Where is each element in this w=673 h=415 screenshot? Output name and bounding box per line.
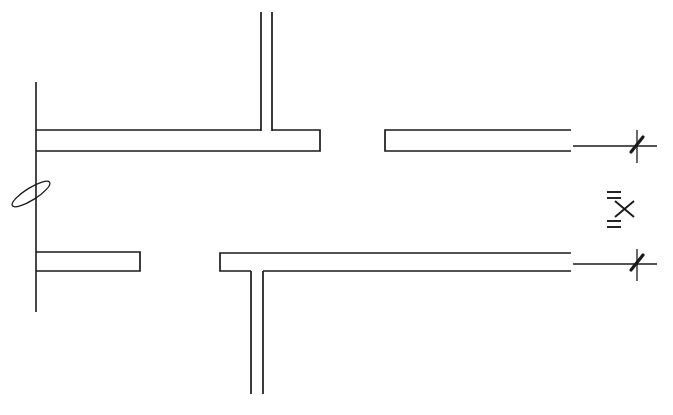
break-symbol-lower-equals [607,221,621,227]
slot-ellipse-break-symbol [9,177,53,210]
lower-left-flange-profile [36,252,140,271]
lower-tee-flange-left-profile [220,253,571,271]
lower-tee-assembly [220,253,571,394]
upper-left-flange-profile [36,130,320,151]
upper-web-stem-profile [261,12,272,131]
technical-drawing-canvas: Technical line drawing = x = [0,0,673,415]
lower-dimension-marker [573,249,657,281]
upper-right-flange-profile [385,130,571,151]
upper-dimension-marker [573,130,657,163]
lower-tee-stem-profile [251,271,263,394]
drawing-svg [0,0,673,415]
lower-left-flange [36,252,140,271]
slot-ellipse-outline [9,177,53,210]
upper-right-flange [385,130,571,151]
break-symbol-cross [615,201,634,217]
break-symbol-upper-equals [607,192,621,198]
upper-left-flange-assembly [36,12,320,151]
dimension-break-symbol [607,192,634,227]
